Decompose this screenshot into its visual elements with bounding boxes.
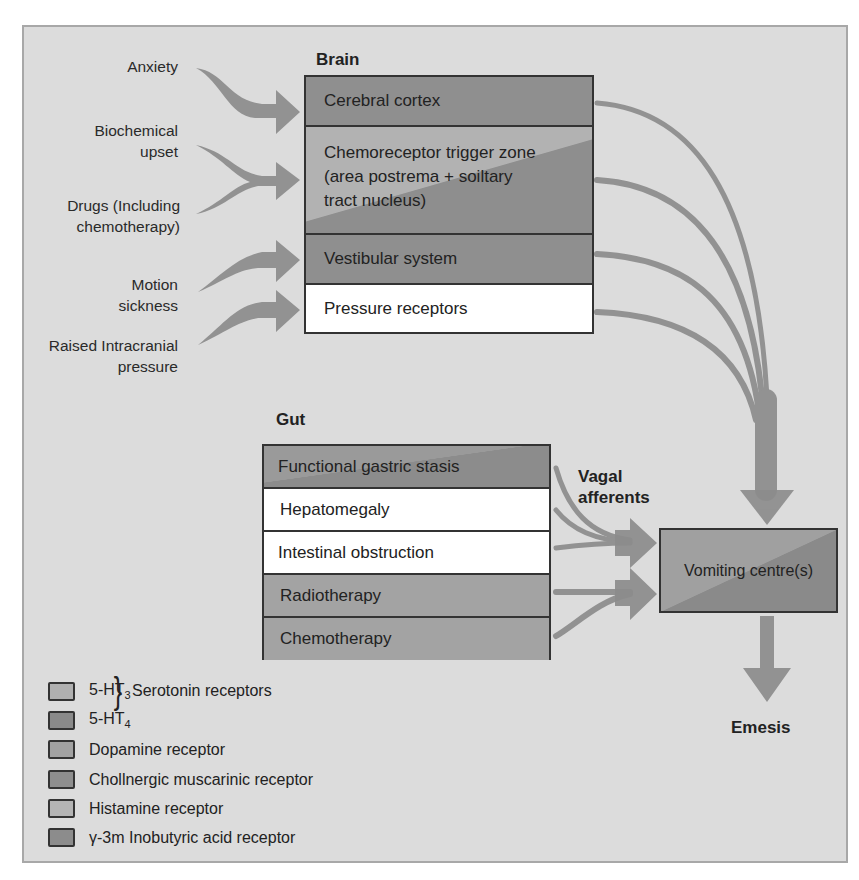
gastric-stasis-label: Functional gastric stasis bbox=[278, 457, 459, 477]
legend-item-5ht4: 5-HT4 bbox=[48, 710, 131, 730]
input-motion-line1: Motion bbox=[40, 274, 178, 295]
input-icp: Raised Intracranial pressure bbox=[20, 335, 178, 377]
brain-row-ctz: Chemoreceptor trigger zone (area postrem… bbox=[306, 127, 592, 235]
legend-item-cholinergic: Chollnergic muscarinic receptor bbox=[48, 770, 313, 789]
ctz-line2: (area postrema + soiltary bbox=[324, 167, 513, 186]
cerebral-cortex-label: Cerebral cortex bbox=[324, 91, 440, 111]
arrow-anxiety-icon bbox=[196, 68, 300, 134]
arrowhead-vagal-upper-icon bbox=[615, 518, 657, 568]
input-drugs-line2: chemotherapy) bbox=[20, 216, 180, 237]
legend-label-5ht3: 5-HT3 bbox=[89, 681, 131, 701]
brain-row-vestibular: Vestibular system bbox=[306, 235, 592, 285]
brain-box: Cerebral cortex Chemoreceptor trigger zo… bbox=[304, 75, 594, 334]
arrowhead-brain-vc-icon bbox=[740, 490, 794, 525]
ctz-label: Chemoreceptor trigger zone (area postrem… bbox=[324, 141, 536, 213]
vagal-line1: Vagal bbox=[578, 466, 650, 487]
curve-ctz-icon bbox=[597, 180, 764, 420]
vagal-afferents-label: Vagal afferents bbox=[578, 466, 650, 508]
legend-label-gaba: γ-3m Inobutyric acid receptor bbox=[89, 829, 295, 847]
legend-item-histamine: Histamine receptor bbox=[48, 799, 223, 818]
radiotherapy-label: Radiotherapy bbox=[280, 586, 381, 606]
gut-heading: Gut bbox=[276, 410, 305, 430]
input-drugs: Drugs (Including chemotherapy) bbox=[20, 195, 180, 237]
emesis-arrow-icon bbox=[743, 616, 791, 702]
arrow-biochemical-icon bbox=[196, 145, 300, 214]
hepatomegaly-label: Hepatomegaly bbox=[280, 500, 390, 520]
intestinal-obstruction-label: Intestinal obstruction bbox=[278, 543, 434, 563]
vestibular-label: Vestibular system bbox=[324, 249, 457, 269]
legend-item-gaba: γ-3m Inobutyric acid receptor bbox=[48, 828, 295, 847]
input-biochemical: Biochemical upset bbox=[40, 120, 178, 162]
curve-cortex-icon bbox=[597, 103, 768, 420]
serotonin-group-label: Serotonin receptors bbox=[132, 682, 272, 700]
legend-swatch-histamine bbox=[48, 799, 75, 818]
arrow-motion-icon bbox=[198, 240, 300, 292]
legend-label-cholinergic: Chollnergic muscarinic receptor bbox=[89, 771, 313, 789]
vagal-line2: afferents bbox=[578, 487, 650, 508]
gut-row-gastric-stasis: Functional gastric stasis bbox=[264, 446, 549, 489]
input-drugs-line1: Drugs (Including bbox=[20, 195, 180, 216]
brain-row-cerebral-cortex: Cerebral cortex bbox=[306, 77, 592, 127]
input-motion-line2: sickness bbox=[40, 295, 178, 316]
legend-label-5ht4: 5-HT4 bbox=[89, 710, 131, 730]
input-icp-line2: pressure bbox=[20, 356, 178, 377]
ctz-line1: Chemoreceptor trigger zone bbox=[324, 143, 536, 162]
input-icp-line1: Raised Intracranial bbox=[20, 335, 178, 356]
arrow-icp-icon bbox=[198, 290, 300, 345]
gut-row-radiotherapy: Radiotherapy bbox=[264, 575, 549, 618]
legend-swatch-gaba bbox=[48, 828, 75, 847]
serotonin-brace-icon: } bbox=[114, 673, 122, 709]
gut-row-intestinal-obstruction: Intestinal obstruction bbox=[264, 532, 549, 575]
arrowhead-vagal-lower-icon bbox=[615, 568, 657, 620]
input-anxiety: Anxiety bbox=[60, 56, 178, 77]
brain-heading: Brain bbox=[316, 50, 359, 70]
emesis-label: Emesis bbox=[731, 718, 791, 738]
gut-row-hepatomegaly: Hepatomegaly bbox=[264, 489, 549, 532]
legend-swatch-5ht3 bbox=[48, 682, 75, 701]
vomiting-centre-label: Vomiting centre(s) bbox=[684, 562, 813, 580]
ctz-line3: tract nucleus) bbox=[324, 191, 426, 210]
gut-row-chemotherapy: Chemotherapy bbox=[264, 618, 549, 660]
input-biochemical-line2: upset bbox=[40, 141, 178, 162]
legend-swatch-dopamine bbox=[48, 740, 75, 759]
legend-label-histamine: Histamine receptor bbox=[89, 800, 223, 818]
legend-label-dopamine: Dopamine receptor bbox=[89, 741, 225, 759]
pressure-receptors-label: Pressure receptors bbox=[324, 299, 468, 319]
input-biochemical-line1: Biochemical bbox=[40, 120, 178, 141]
legend-swatch-cholinergic bbox=[48, 770, 75, 789]
chemotherapy-label: Chemotherapy bbox=[280, 629, 392, 649]
input-anxiety-text: Anxiety bbox=[127, 58, 178, 75]
gut-box: Functional gastric stasis Hepatomegaly I… bbox=[262, 444, 551, 660]
vomiting-centre-box: Vomiting centre(s) bbox=[659, 528, 838, 613]
brain-row-pressure: Pressure receptors bbox=[306, 285, 592, 332]
input-motion: Motion sickness bbox=[40, 274, 178, 316]
legend-item-dopamine: Dopamine receptor bbox=[48, 740, 225, 759]
legend-swatch-5ht4 bbox=[48, 711, 75, 730]
